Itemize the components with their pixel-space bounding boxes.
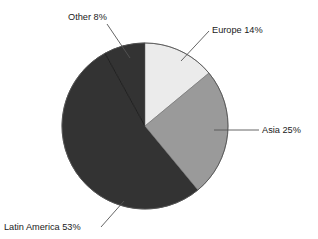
pie-label-latin-america: Latin America 53%: [4, 222, 81, 232]
leader-line-europe: [181, 31, 209, 61]
pie-label-asia: Asia 25%: [262, 125, 301, 135]
leader-line-latin-america: [101, 201, 124, 227]
pie-chart-canvas: Other 8% Europe 14% Asia 25% Latin Ameri…: [0, 0, 318, 239]
pie-label-other: Other 8%: [68, 12, 107, 22]
pie-chart-figure: Other 8% Europe 14% Asia 25% Latin Ameri…: [0, 0, 318, 239]
pie-label-europe: Europe 14%: [212, 25, 263, 35]
